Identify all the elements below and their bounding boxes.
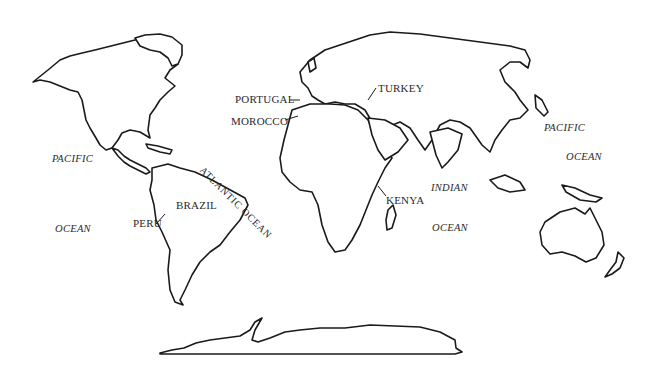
kenya-leader (378, 186, 386, 196)
world-map: PORTUGAL MOROCCO TURKEY BRAZIL PERU KENY… (0, 0, 655, 381)
north-america (33, 38, 178, 150)
label-ocean-east: OCEAN (566, 152, 602, 163)
australia (540, 208, 604, 262)
label-turkey: TURKEY (378, 83, 424, 94)
new-guinea (562, 185, 602, 202)
label-ocean-indian: OCEAN (432, 223, 468, 234)
india (430, 128, 462, 168)
continents-outline (0, 0, 655, 381)
label-pacific-east: PACIFIC (544, 123, 585, 134)
new-zealand (605, 252, 624, 277)
label-ocean-west: OCEAN (55, 224, 91, 235)
madagascar (386, 205, 396, 230)
label-brazil: BRAZIL (176, 200, 217, 211)
central-america (112, 148, 150, 174)
label-indian: INDIAN (431, 183, 468, 194)
label-peru: PERU (133, 218, 162, 229)
label-kenya: KENYA (386, 195, 424, 206)
japan (535, 95, 548, 116)
label-morocco: MOROCCO (231, 116, 288, 127)
south-america (150, 164, 248, 305)
southeast-asia-islands (490, 175, 525, 192)
label-pacific-west: PACIFIC (52, 154, 93, 165)
label-portugal: PORTUGAL (235, 94, 295, 105)
antarctica (160, 318, 462, 354)
caribbean (146, 144, 172, 154)
